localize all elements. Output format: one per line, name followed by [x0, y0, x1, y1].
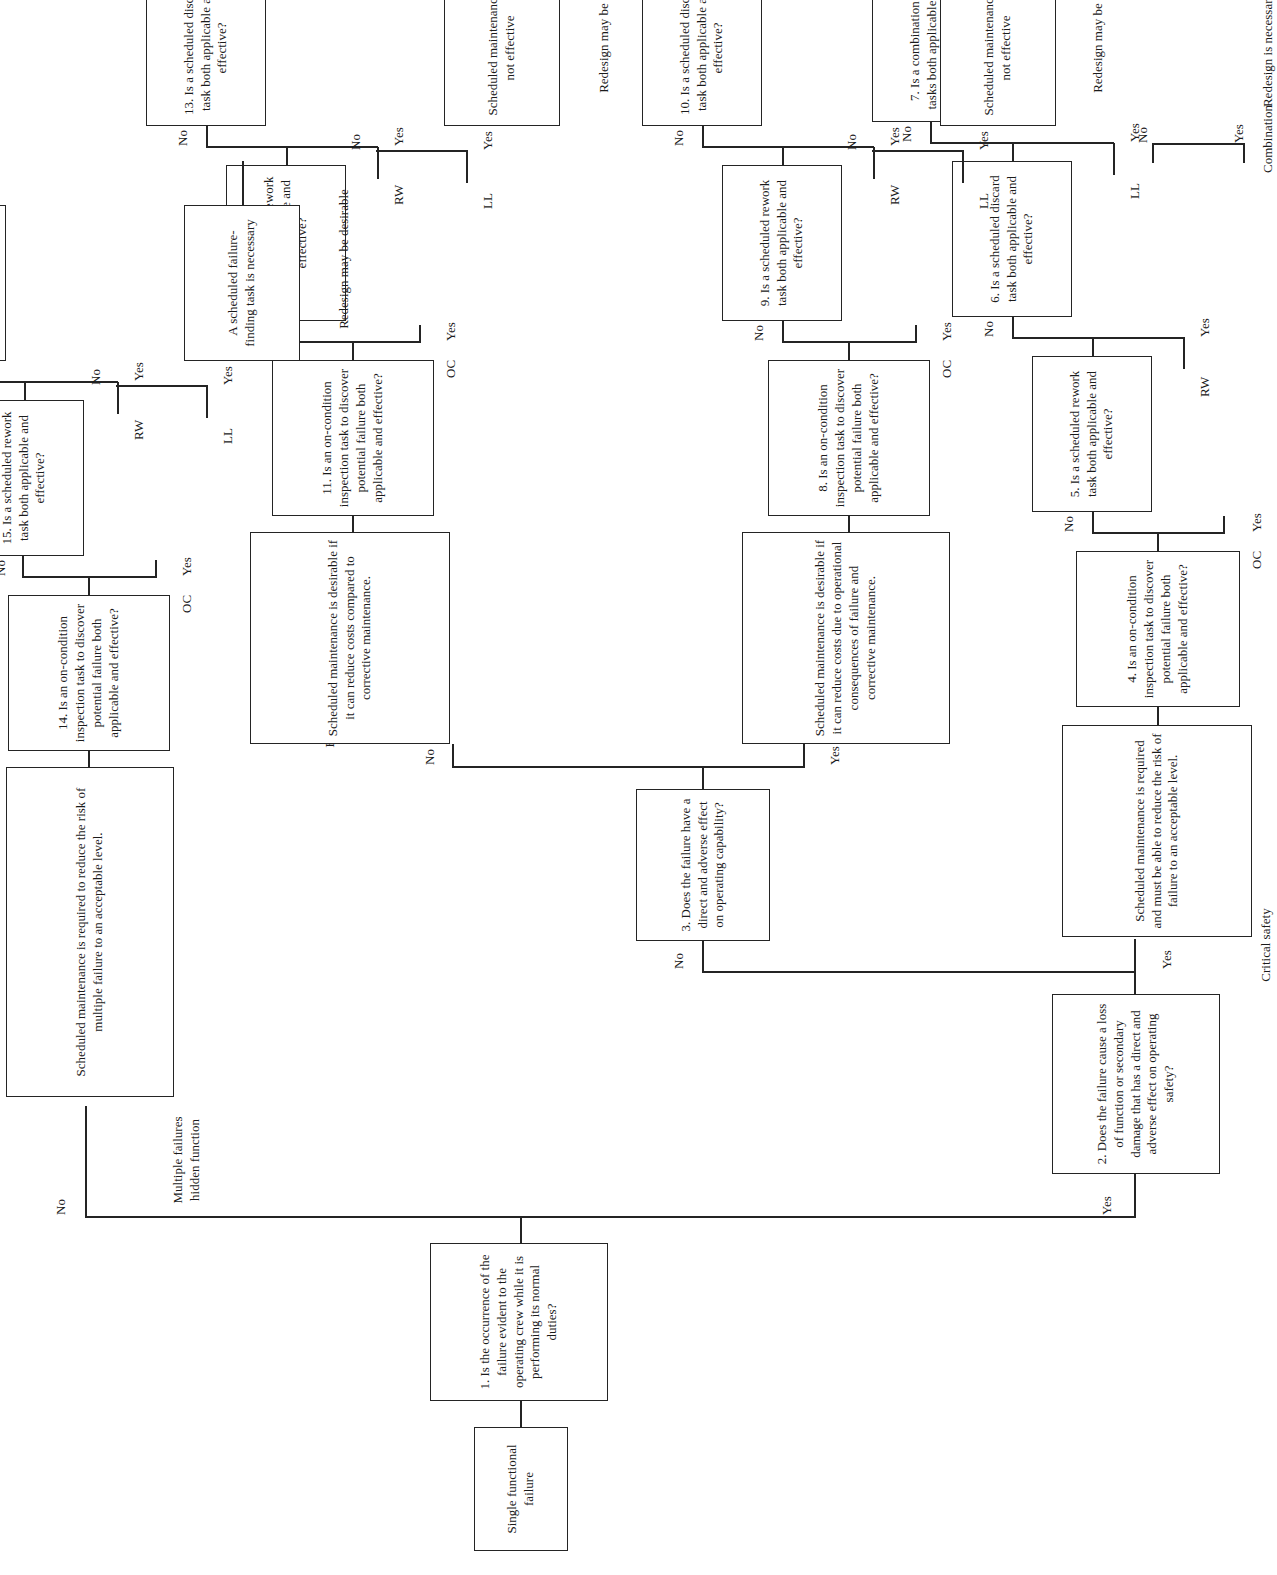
box-question-16: 16. Is a scheduled discard task both app… — [0, 205, 6, 361]
link-q6-no — [930, 122, 932, 144]
edgelabel-q12-yes: Yes — [392, 127, 406, 146]
edgelabel-q14-no: No — [0, 560, 8, 576]
link-q1-no — [85, 1106, 87, 1218]
link-q3-no — [452, 744, 454, 768]
outcome-redesign-necessary-label: Redesign is necessary — [1260, 0, 1277, 145]
edgelabel-q16-yes: Yes — [221, 366, 235, 385]
box-question-5: 5. Is a scheduled rework task both appli… — [1032, 356, 1152, 512]
link-q12-split — [286, 147, 288, 165]
link-q10-llbus — [872, 150, 964, 152]
edgelabel-q2-no: No — [672, 953, 686, 969]
link-q14-yes — [155, 560, 157, 578]
edgelabel-q4-no: No — [1062, 516, 1076, 532]
link-q4-split — [1157, 533, 1159, 551]
edgelabel-q10-ll: LL — [977, 193, 991, 209]
link-q9-split — [782, 147, 784, 165]
link-q9-no — [702, 126, 704, 148]
link-q8-no — [782, 321, 784, 343]
link-q2-bus — [702, 971, 1136, 973]
link-q12-no — [206, 126, 208, 148]
link-q1-bus — [85, 1216, 1135, 1218]
link-q16-ll — [206, 386, 208, 418]
link-q10-ll — [962, 151, 964, 183]
edgelabel-q13-yes: Yes — [481, 131, 495, 150]
edgelabel-q6-ll: LL — [1128, 183, 1142, 199]
edgelabel-q11-oc: OC — [444, 360, 458, 378]
edgelabel-q11-yes: Yes — [444, 322, 458, 341]
link-q5-split — [1092, 338, 1094, 356]
link-q4-bus — [1092, 532, 1224, 534]
link-q5-bus — [1012, 337, 1184, 339]
link-q11-yes — [419, 325, 421, 343]
link-q3-split — [702, 767, 704, 789]
link-hidden-outcome-tail — [242, 161, 244, 205]
link-q14-split — [88, 577, 90, 595]
link-q5-no — [1012, 317, 1014, 339]
edgelabel-q13-no: No — [349, 134, 363, 150]
box-question-8: 8. Is an on-condition inspection task to… — [768, 360, 930, 516]
box-question-13: 13. Is a scheduled discard task both app… — [146, 0, 266, 126]
edgelabel-q1-yes: Yes — [1100, 1196, 1114, 1215]
link-q11-bus — [286, 341, 420, 343]
link-q3-yes — [803, 744, 805, 768]
edgelabel-q8-no: No — [752, 325, 766, 341]
box-question-14: 14. Is an on-condition inspection task t… — [8, 595, 170, 751]
edgelabel-q15-yes: Yes — [132, 362, 146, 381]
branchlabel-critical-safety: Critical safety — [1258, 835, 1275, 1055]
edgelabel-q12-rw: RW — [392, 185, 406, 205]
link-q7-ybus — [1152, 143, 1244, 145]
edgelabel-q16-no: No — [89, 369, 103, 385]
link-hidden-q14 — [88, 751, 90, 767]
edgelabel-q3-yes: Yes — [828, 746, 842, 765]
edgelabel-q7-no: No — [1136, 127, 1150, 143]
link-econnonop-q11 — [352, 516, 354, 532]
link-start-q1 — [520, 1401, 522, 1427]
link-q3-bus — [452, 766, 804, 768]
edgelabel-q13-ll: LL — [481, 193, 495, 209]
box-economic-non-operational-statement: Scheduled maintenance is desirable if it… — [250, 532, 450, 744]
edgelabel-q8-yes: Yes — [940, 322, 954, 341]
link-q14-bus — [22, 576, 156, 578]
edgelabel-q14-oc: OC — [180, 595, 194, 613]
outcome-redesign-desirable-nonoperational: Redesign may be desirable — [596, 0, 613, 123]
edgelabel-q8-oc: OC — [940, 360, 954, 378]
edgelabel-q5-no: No — [982, 321, 996, 337]
edgelabel-q3-no: No — [423, 749, 437, 765]
box-outcome-scheduled-maintenance-not-effective-nonop: Scheduled maintenance is not effective — [444, 0, 560, 126]
link-q13-ll — [466, 151, 468, 183]
box-question-3: 3. Does the failure have a direct and ad… — [636, 789, 770, 941]
box-question-6: 6. Is a scheduled discard task both appl… — [952, 161, 1072, 317]
edgelabel-q4-yes: Yes — [1250, 513, 1264, 532]
box-question-15: 15. Is a scheduled rework task both appl… — [0, 400, 84, 556]
box-outcome-failure-finding-task: A scheduled failure-finding task is nece… — [184, 205, 300, 361]
edgelabel-q12-no: No — [176, 130, 190, 146]
edgelabel-q14-yes: Yes — [180, 557, 194, 576]
link-q13-llbus — [376, 150, 468, 152]
edgelabel-q10-no: No — [845, 134, 859, 150]
edgelabel-q4-oc: OC — [1250, 551, 1264, 569]
box-question-1: 1. Is the occurrence of the failure evid… — [430, 1243, 608, 1401]
link-q4-no — [1092, 512, 1094, 534]
box-question-2: 2. Does the failure cause a loss of func… — [1052, 994, 1220, 1174]
box-outcome-scheduled-maintenance-not-effective-op: Scheduled maintenance is not effective — [940, 0, 1056, 126]
edgelabel-q9-yes: Yes — [888, 127, 902, 146]
outcome-redesign-desirable-operational: Redesign may be desirable — [1090, 0, 1107, 123]
edgelabel-q5-yes: Yes — [1198, 318, 1212, 337]
box-single-functional-failure: Single functional failure — [474, 1427, 568, 1551]
box-hidden-function-statement: Scheduled maintenance is required to red… — [6, 767, 174, 1097]
box-question-11: 11. Is an on-condition inspection task t… — [272, 360, 434, 516]
edgelabel-q16-ll: LL — [221, 428, 235, 444]
link-q7-no — [1152, 143, 1154, 163]
edgelabel-q2-yes: Yes — [1160, 950, 1174, 969]
edgelabel-q9-no: No — [672, 130, 686, 146]
edgelabel-q7-yes: Yes — [1232, 124, 1246, 143]
edgelabel-q9-rw: RW — [888, 185, 902, 205]
link-q16-llbus — [116, 385, 208, 387]
link-q4-yes — [1223, 516, 1225, 534]
edgelabel-q1-no: No — [54, 1199, 68, 1215]
link-q2-no — [702, 941, 704, 973]
link-q8-yes — [915, 325, 917, 343]
box-question-4: 4. Is an on-condition inspection task to… — [1076, 551, 1240, 707]
box-economic-operational-statement: Scheduled maintenance is desirable if it… — [742, 532, 950, 744]
